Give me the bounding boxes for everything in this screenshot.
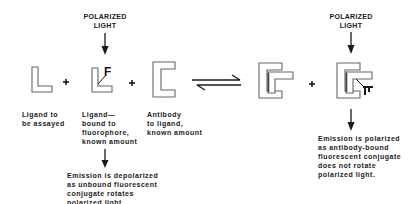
polarized-light-label-right: POLARIZED LIGHT	[326, 12, 376, 30]
outcome-arrow-left	[102, 149, 109, 168]
labeled-ligand-caption: Ligand— bound to fluorophore, known amou…	[82, 110, 137, 146]
equilibrium-arrows-icon	[192, 75, 241, 90]
unbound-outcome-text: Emission is depolarized as unbound fluor…	[67, 171, 158, 204]
light-label-line1: POLARIZED	[326, 12, 376, 21]
antibody-caption: Antibody to ligand, known amount	[147, 110, 202, 137]
plus-sign-icon	[129, 80, 135, 86]
plus-sign-icon	[63, 79, 69, 85]
polarized-light-arrow-right	[348, 32, 355, 54]
polarized-light-label-left: POLARIZED LIGHT	[80, 12, 130, 30]
fluorophore-marker: F	[104, 65, 111, 79]
polarized-light-arrow-left	[102, 33, 109, 55]
plus-sign-icon	[309, 81, 315, 87]
ligand-shape-icon	[32, 67, 52, 92]
antibody-ligand-complex-icon	[259, 63, 293, 98]
bound-outcome-text: Emission is polarized as antibody-bound …	[318, 134, 401, 179]
antibody-labeled-ligand-complex-icon	[337, 63, 373, 98]
light-label-line2: LIGHT	[326, 21, 376, 30]
antibody-shape-icon	[153, 62, 175, 97]
light-label-line2: LIGHT	[80, 21, 130, 30]
ligand-caption: Ligand to be assayed	[22, 110, 65, 128]
light-label-line1: POLARIZED	[80, 12, 130, 21]
outcome-arrow-right	[348, 109, 355, 131]
